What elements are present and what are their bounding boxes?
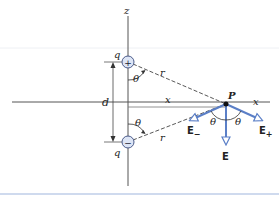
x-axis-label: x <box>253 96 259 107</box>
e-minus-label: E− <box>187 125 201 139</box>
angle-bottom-label: θ <box>135 117 141 128</box>
positive-charge-label: q <box>114 49 120 60</box>
point-p-label: P <box>227 90 236 101</box>
negative-charge: − <box>122 136 134 148</box>
angle-top-label: θ <box>133 73 139 84</box>
e-plus-label: E+ <box>259 125 273 139</box>
x-distance-label: x <box>165 94 171 105</box>
d-arrow-head-top <box>111 62 116 68</box>
positive-charge: + <box>122 56 134 68</box>
r-top-label: r <box>160 67 166 78</box>
angle-p-right-label: θ <box>235 116 241 127</box>
d-arrow-head-bottom <box>111 136 116 142</box>
point-p <box>224 102 229 107</box>
plus-sign: + <box>124 58 132 68</box>
negative-charge-label: q <box>114 147 120 158</box>
minus-sign: − <box>124 138 132 148</box>
r-line-top <box>133 64 226 104</box>
dipole-diagram: z x d + q − q θ θ r r x θ θ P E− <box>0 0 279 199</box>
e-total-label: E <box>222 151 229 162</box>
r-bottom-label: r <box>160 132 166 143</box>
angle-arc-bottom-arrow <box>141 130 146 134</box>
angle-p-left-label: θ <box>210 116 216 127</box>
angle-arc-top-arrow <box>141 70 146 74</box>
z-axis-label: z <box>123 5 130 16</box>
d-label: d <box>102 96 109 109</box>
